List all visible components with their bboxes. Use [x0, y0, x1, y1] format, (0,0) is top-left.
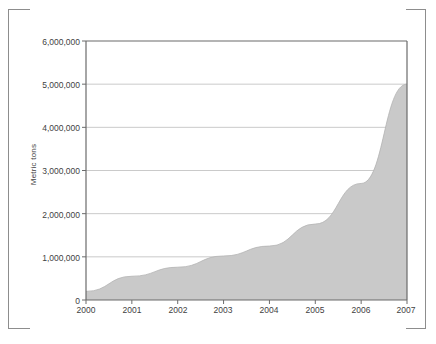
plot-canvas [0, 0, 436, 344]
area-series-path [86, 84, 407, 300]
area-chart: Metric tons 6,000,000 5,000,000 4,000,00… [0, 0, 436, 344]
